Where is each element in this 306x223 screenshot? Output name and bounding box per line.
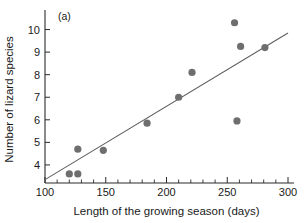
data-point: [143, 120, 150, 127]
data-point: [237, 43, 244, 50]
data-point: [100, 147, 107, 154]
data-point: [233, 117, 240, 124]
x-axis-tick-label: 150: [97, 186, 115, 198]
y-axis-tick-label: 5: [34, 136, 40, 148]
data-point: [74, 146, 81, 153]
data-point: [175, 94, 182, 101]
y-axis-tick-label: 4: [34, 159, 40, 171]
chart-canvas: 45678910100150200250300Length of the gro…: [0, 0, 306, 223]
x-axis-tick-label: 250: [218, 186, 236, 198]
y-axis-tick-label: 9: [34, 46, 40, 58]
data-point: [261, 44, 268, 51]
x-axis-title: Length of the growing season (days): [73, 205, 259, 217]
y-axis-tick-label: 7: [34, 91, 40, 103]
data-point: [231, 19, 238, 26]
data-point: [74, 170, 81, 177]
data-point: [188, 69, 195, 76]
x-axis-tick-label: 200: [157, 186, 175, 198]
y-axis-tick-label: 10: [28, 24, 40, 36]
y-axis-title: Number of lizard species: [3, 36, 15, 163]
scatter-plot-figure: 45678910100150200250300Length of the gro…: [0, 0, 306, 223]
x-axis-tick-label: 100: [36, 186, 54, 198]
data-point: [66, 170, 73, 177]
y-axis-tick-label: 8: [34, 69, 40, 81]
y-axis-tick-label: 6: [34, 114, 40, 126]
panel-label: (a): [58, 10, 71, 22]
x-axis-tick-label: 300: [279, 186, 297, 198]
